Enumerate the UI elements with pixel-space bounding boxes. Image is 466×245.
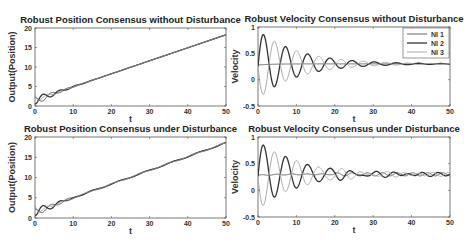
y-tick-label: 5	[28, 194, 32, 201]
x-tick-label: 10	[69, 108, 77, 115]
x-tick-label: 0	[33, 108, 37, 115]
y-tick-label: 0	[28, 103, 32, 110]
x-tick-label: 10	[69, 220, 77, 227]
y-tick-label: 5	[28, 83, 32, 90]
y-tick-label: 10	[24, 64, 32, 71]
subplot-title: Robust Velocity Consensus without Distur…	[244, 13, 463, 24]
y-tick-label: 0.5	[245, 50, 255, 57]
y-tick-label: -0.5	[243, 214, 255, 221]
x-tick-label: 0	[256, 108, 260, 115]
subplot-velocity-disturbance: Robust Velocity Consensus under Disturba…	[230, 123, 460, 235]
subplot-velocity-no-disturbance: Robust Velocity Consensus without Distur…	[230, 13, 464, 124]
x-tick-label: 0	[256, 219, 260, 226]
y-tick-label: 0	[251, 187, 255, 194]
x-tick-label: 30	[146, 108, 154, 115]
x-tick-label: 40	[184, 220, 192, 227]
x-tick-label: 30	[146, 220, 154, 227]
legend-entry: NI 1	[431, 31, 444, 38]
y-tick-label: 1	[251, 24, 255, 31]
x-tick-label: 50	[446, 108, 454, 115]
x-tick-label: 40	[408, 108, 416, 115]
y-tick-label: -0.5	[243, 103, 255, 110]
x-tick-label: 0	[33, 220, 37, 227]
x-tick-label: 40	[408, 219, 416, 226]
y-axis-label: Velocity	[230, 49, 240, 83]
x-tick-label: 50	[446, 219, 454, 226]
y-tick-label: 0.5	[245, 160, 255, 167]
subplot-title: Robust Position Consensus under Disturba…	[24, 123, 237, 134]
y-tick-label: 1	[251, 134, 255, 141]
y-axis-label: Output(Position)	[7, 32, 17, 103]
x-tick-label: 50	[222, 220, 230, 227]
x-axis-label: t	[353, 225, 356, 235]
y-tick-label: 15	[24, 154, 32, 161]
y-tick-label: 10	[24, 174, 32, 181]
x-tick-label: 10	[293, 108, 301, 115]
x-tick-label: 40	[184, 108, 192, 115]
figure-canvas: Robust Position Consensus without Distur…	[0, 0, 466, 245]
legend-entry: NI 2	[431, 40, 444, 47]
x-tick-label: 20	[331, 108, 339, 115]
x-tick-label: 20	[108, 108, 116, 115]
y-tick-label: 0	[251, 76, 255, 83]
x-tick-label: 10	[293, 219, 301, 226]
subplot-title: Robust Velocity Consensus under Disturba…	[248, 123, 460, 134]
x-tick-label: 20	[108, 220, 116, 227]
y-tick-label: 0	[28, 215, 32, 222]
y-tick-label: 15	[24, 44, 32, 51]
y-axis-label: Velocity	[230, 160, 240, 194]
subplot-position-disturbance: Robust Position Consensus under Disturba…	[7, 123, 237, 236]
x-axis-label: t	[129, 226, 132, 236]
y-tick-label: 20	[24, 25, 32, 32]
x-tick-label: 20	[331, 219, 339, 226]
legend: NI 1NI 2NI 3	[403, 28, 449, 58]
subplot-position-no-disturbance: Robust Position Consensus without Distur…	[7, 14, 241, 124]
x-tick-label: 30	[369, 219, 377, 226]
y-axis-label: Output(Position)	[7, 142, 17, 213]
subplot-title: Robust Position Consensus without Distur…	[20, 14, 241, 25]
legend-entry: NI 3	[431, 49, 444, 56]
x-tick-label: 30	[369, 108, 377, 115]
x-tick-label: 50	[222, 108, 230, 115]
y-tick-label: 20	[24, 134, 32, 141]
